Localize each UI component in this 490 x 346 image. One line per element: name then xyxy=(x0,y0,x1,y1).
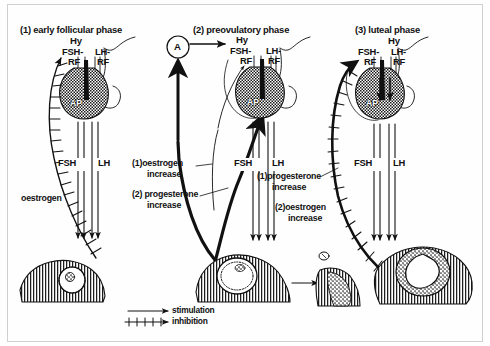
panel-2-fsh-label: FSH xyxy=(234,158,252,169)
panel-1-title: (1) early follicular phase xyxy=(20,25,122,36)
legend-inhibition-label: inhibition xyxy=(172,317,208,326)
panel-2-lh-label: LH xyxy=(272,158,284,169)
panel-3-progesterone-increase-line2: increase xyxy=(272,183,306,193)
panel-3-lh-rf-label-line2: RF xyxy=(393,57,405,68)
legend-artwork xyxy=(125,311,168,326)
panel-2-node-a-label: A xyxy=(174,41,181,52)
leader-oestrogen-increase xyxy=(196,164,212,166)
panel-1-fsh-label: FSH xyxy=(58,158,76,169)
panel-2-fsh-rf-label-line2: RF xyxy=(240,56,252,67)
panel-3-progesterone-increase-line1: (1)progesterone xyxy=(257,172,321,182)
panel-1-pituitary-label: AP xyxy=(70,98,82,108)
panel-3-fsh-rf-label-line2: RF xyxy=(364,57,376,68)
panel-3-fsh-label: FSH xyxy=(354,158,372,169)
panel-2-progesterone-increase-line1: (2) progesterone xyxy=(132,190,198,200)
panel-2-progesterone-increase-line2: increase xyxy=(147,201,181,211)
panel-3-title: (3) luteal phase xyxy=(355,25,420,36)
panel-3-oestrogen-increase-line1: (2)oestrogen xyxy=(275,203,326,213)
panel-1-fsh-rf-label-line2: RF xyxy=(68,57,80,68)
panel-2-lh-rf-label-line2: RF xyxy=(268,56,280,67)
panel-2-oestrogen-increase-line2: increase xyxy=(147,170,181,180)
panel-2-pituitary-label: AP xyxy=(247,97,259,107)
panel-1-lh-label: LH xyxy=(98,158,110,169)
panel-3-pituitary-label: AP xyxy=(366,98,378,108)
panel-2-oestrogen-increase-line1: (1)oestrogen xyxy=(132,159,183,169)
panel-3-oestrogen-increase-line2: increase xyxy=(288,214,322,224)
panel-1-oestrogen-feedback-label: oestrogen xyxy=(21,194,62,204)
panel-1-lh-rf-label-line2: RF xyxy=(97,57,109,68)
leader-progesterone-increase xyxy=(200,188,228,196)
diagram-canvas: (1) early follicular phase (2) preovulat… xyxy=(0,0,490,346)
panel-3-lh-label: LH xyxy=(393,158,405,169)
legend-stimulation-label: stimulation xyxy=(172,306,214,315)
